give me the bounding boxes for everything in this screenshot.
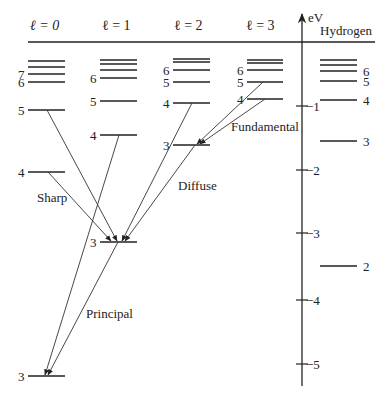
level-n-label: 5 — [237, 75, 244, 90]
level-n-label: 4 — [163, 96, 170, 111]
level-n-label: 5 — [90, 94, 97, 109]
principal-transition-4 — [45, 135, 119, 375]
level-n-label: 5 — [163, 75, 170, 90]
header-l3: ℓ = 3 — [246, 18, 275, 33]
level-n-label: 3 — [90, 235, 97, 250]
level-n-label: 4 — [237, 92, 244, 107]
level-n-label: 6 — [18, 75, 25, 90]
level-n-label: 2 — [363, 259, 370, 274]
header-l1: ℓ = 1 — [102, 18, 131, 33]
hydrogen-label: Hydrogen — [320, 23, 372, 38]
axis-ticks: −1−2−3−4−5 — [296, 99, 320, 372]
levels-hydrogen: 65432 — [320, 60, 370, 274]
label-fundamental: Fundamental — [231, 119, 299, 134]
label-principal: Principal — [86, 306, 133, 321]
axis-tick-label: −1 — [306, 99, 320, 114]
header-l0: ℓ = 0 — [30, 18, 59, 33]
level-n-label: 4 — [90, 128, 97, 143]
levels-l1: 6543 — [90, 60, 137, 250]
axis-tick-label: −3 — [306, 226, 320, 241]
energy-level-diagram: ℓ = 0 ℓ = 1 ℓ = 2 ℓ = 3 eV Hydrogen −1−2… — [0, 0, 388, 398]
header-l2: ℓ = 2 — [174, 18, 203, 33]
levels-l0: 76543 — [18, 61, 65, 384]
level-n-label: 3 — [363, 134, 370, 149]
column-headers: ℓ = 0 ℓ = 1 ℓ = 2 ℓ = 3 eV Hydrogen — [30, 10, 372, 38]
axis-tick-label: −4 — [306, 293, 320, 308]
sharp-transition-4 — [48, 172, 111, 241]
level-n-label: 4 — [18, 165, 25, 180]
diffuse-transition-3 — [125, 145, 195, 241]
level-n-label: 5 — [363, 74, 370, 89]
axis-tick-label: −5 — [306, 357, 320, 372]
label-diffuse: Diffuse — [178, 178, 217, 193]
level-n-label: 5 — [18, 103, 25, 118]
fundamental-transition-5 — [197, 82, 263, 144]
level-n-label: 4 — [363, 93, 370, 108]
level-n-label: 6 — [90, 71, 97, 86]
label-sharp: Sharp — [37, 190, 67, 205]
diffuse-transition-4 — [122, 103, 192, 241]
level-n-label: 3 — [18, 369, 25, 384]
axis-tick-label: −2 — [306, 163, 320, 178]
level-n-label: 3 — [163, 138, 170, 153]
